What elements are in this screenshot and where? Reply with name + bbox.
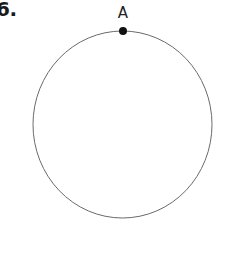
point-a-label: A bbox=[118, 6, 128, 21]
circle-outline bbox=[33, 31, 212, 218]
figure-page: 6. A bbox=[0, 0, 226, 270]
circle-diagram bbox=[0, 0, 226, 270]
point-a-marker bbox=[119, 27, 127, 35]
